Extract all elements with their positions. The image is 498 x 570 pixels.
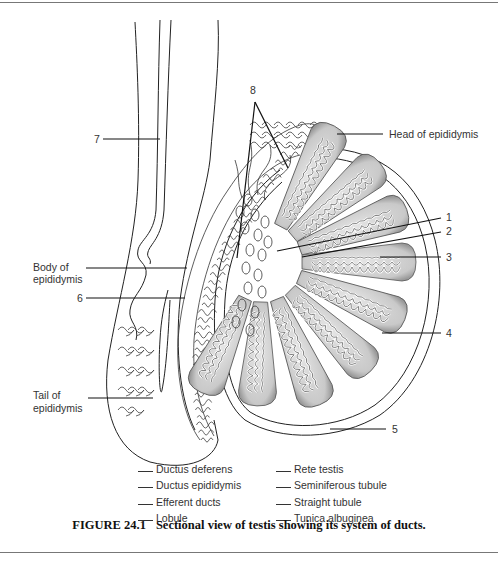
answer-term: Rete testis: [294, 463, 344, 475]
label-3: 3: [446, 251, 452, 263]
answer-item: Straight tubule: [276, 494, 387, 510]
label-5: 5: [392, 423, 398, 435]
answer-term: Straight tubule: [294, 496, 362, 508]
coil: [198, 326, 210, 330]
testis-illustration: [0, 0, 498, 570]
coil: [118, 347, 134, 356]
coil: [271, 168, 283, 172]
answer-term: Seminiferous tubule: [294, 479, 387, 491]
answer-term: Ductus deferens: [156, 463, 232, 475]
figure-caption-text: Sectional view of testis showing its sys…: [156, 518, 426, 532]
coil: [201, 438, 213, 442]
coil: [209, 281, 221, 285]
rete-cell: [261, 216, 269, 228]
rete-cell: [244, 282, 252, 294]
coil: [118, 387, 134, 396]
rete-cell: [242, 262, 250, 274]
coil: [195, 332, 213, 338]
label-body-of-epididymis-line1: Body of: [33, 261, 69, 273]
coil: [263, 175, 281, 181]
answer-item: Ductus deferens: [138, 461, 241, 477]
coil: [194, 400, 212, 406]
label-tail-of-epididymis-line2: epididymis: [33, 402, 83, 414]
rete-cell: [246, 244, 254, 256]
coil: [118, 367, 134, 376]
label-4: 4: [446, 327, 452, 339]
rete-cell: [254, 229, 262, 241]
coil: [196, 422, 214, 428]
label-8: 8: [250, 84, 256, 96]
coil: [212, 265, 230, 271]
coil: [217, 258, 229, 262]
coil: [198, 318, 213, 323]
answer-blank[interactable]: [276, 487, 291, 488]
figure-number: FIGURE 24.1: [72, 518, 146, 532]
rete-cell: [264, 236, 272, 248]
coil: [203, 295, 218, 300]
coil: [118, 327, 134, 336]
answer-key-right: Rete testis Seminiferous tubule Straight…: [276, 461, 387, 527]
coil: [118, 407, 134, 416]
coil: [202, 303, 214, 307]
coil: [197, 416, 209, 420]
leader-8b: [255, 102, 288, 168]
answer-blank[interactable]: [138, 504, 153, 505]
label-body-of-epididymis-line2: epididymis: [33, 273, 83, 285]
coil: [204, 287, 222, 293]
label-6: 6: [77, 292, 83, 304]
label-head-of-epididymis: Head of epididymis: [389, 128, 478, 140]
answer-item: Efferent ducts: [138, 494, 241, 510]
label-1: 1: [446, 211, 452, 223]
answer-blank[interactable]: [138, 487, 153, 488]
rete-cell: [258, 286, 266, 298]
label-tail-of-epididymis-line1: Tail of: [33, 389, 60, 401]
rete-cell: [258, 249, 266, 261]
answer-blank[interactable]: [138, 471, 153, 472]
lobules: [184, 117, 416, 412]
answer-blank[interactable]: [276, 471, 291, 472]
leader-8a: [237, 102, 255, 258]
answer-term: Efferent ducts: [156, 496, 221, 508]
answer-blank[interactable]: [276, 504, 291, 505]
answer-item: Ductus epididymis: [138, 477, 241, 493]
answer-item: Seminiferous tubule: [276, 477, 387, 493]
answer-term: Ductus epididymis: [156, 479, 241, 491]
label-2: 2: [446, 225, 452, 237]
rete-cell: [251, 209, 259, 221]
epididymis-coil-group: [118, 122, 326, 442]
answer-item: Rete testis: [276, 461, 387, 477]
coil: [198, 310, 216, 316]
bottom-rule: [0, 552, 498, 553]
coil: [219, 250, 234, 255]
label-7: 7: [94, 133, 100, 145]
answer-key-left: Ductus deferens Ductus epididymis Effere…: [138, 461, 241, 527]
rete-cell: [254, 269, 262, 281]
figure-caption: FIGURE 24.1Sectional view of testis show…: [0, 518, 498, 533]
